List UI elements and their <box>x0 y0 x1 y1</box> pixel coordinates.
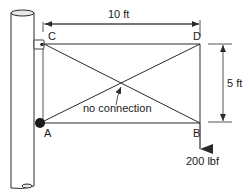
pin-c <box>40 43 44 47</box>
node-label-c: C <box>48 30 56 42</box>
load-label: 200 lbf <box>186 155 220 167</box>
dimension-label-horizontal: 10 ft <box>108 8 129 20</box>
node-label-a: A <box>44 127 52 139</box>
diagram-canvas: C D A B 10 ft 5 ft no connection 200 lbf <box>0 0 249 194</box>
node-label-b: B <box>193 127 200 139</box>
node-label-d: D <box>193 30 201 42</box>
dimension-10ft <box>44 20 200 36</box>
no-connection-label: no connection <box>83 102 152 114</box>
dimension-label-vertical: 5 ft <box>227 77 242 89</box>
truss-diagram: C D A B 10 ft 5 ft no connection 200 lbf <box>0 0 249 194</box>
pole <box>11 10 34 189</box>
